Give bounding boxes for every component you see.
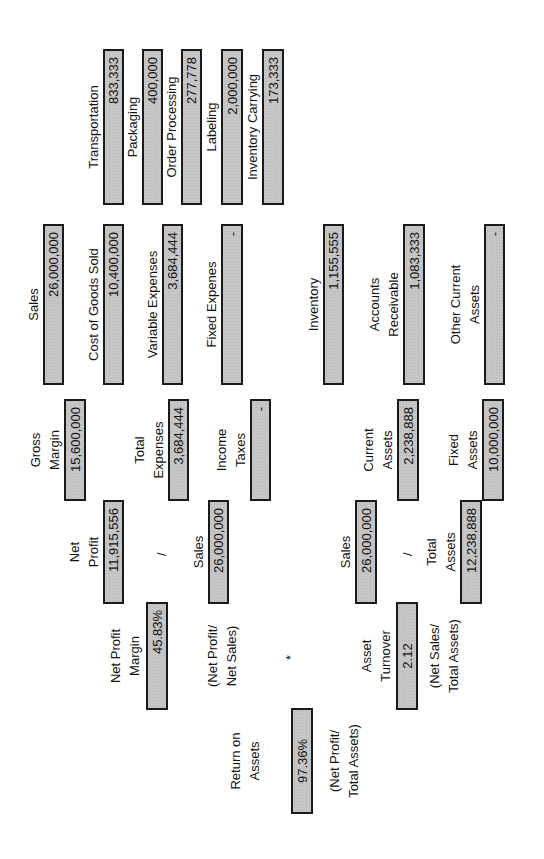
net-profit-margin-label: Net Profit Margin: [106, 602, 144, 710]
net-profit-label-line2: Profit: [84, 500, 103, 604]
total-assets-label: Total Assets: [422, 500, 460, 604]
sales-bottom-label: Sales: [336, 500, 355, 604]
asset-turnover-label-line2: Turnover: [376, 602, 395, 710]
multiply-operator: *: [283, 655, 298, 660]
net-profit-margin-box: 45.83%: [146, 602, 168, 710]
order-processing-label: Order Processing: [162, 49, 181, 205]
asset-turnover-formula: (Net Sales/ Total Assets): [425, 602, 463, 710]
return-on-assets-formula: (Net Profit/ Total Assets): [325, 708, 363, 814]
net-profit-margin-formula-line1: (Net Profit/: [203, 602, 222, 710]
current-assets-label-line2: Assets: [378, 399, 397, 501]
net-profit-margin-label-line1: Net Profit: [106, 602, 125, 710]
total-expenses-label-line2: Expenses: [149, 399, 168, 501]
total-assets-label-line2: Assets: [441, 500, 460, 604]
variable-expenses-box: 3,684,444: [162, 224, 183, 385]
return-on-assets-label: Return on Assets: [226, 708, 264, 814]
labeling-label: Labeling: [202, 49, 221, 205]
fixed-assets-label-line2: Assets: [463, 399, 482, 501]
fixed-expenses-label: Fixed Expenes: [202, 224, 221, 385]
current-assets-label: Current Assets: [359, 399, 397, 501]
other-current-assets-label-line1: Other Current: [446, 224, 465, 385]
sales-mid-label: Sales: [189, 500, 208, 604]
total-assets-label-line1: Total: [422, 500, 441, 604]
sales-top-label: Sales: [24, 224, 43, 385]
net-profit-margin-label-line2: Margin: [125, 602, 144, 710]
labeling-box: 2,000,000: [221, 49, 243, 205]
income-taxes-label: Income Taxes: [212, 399, 250, 501]
asset-turnover-formula-line1: (Net Sales/: [425, 602, 444, 710]
divide-operator-assets: /: [400, 552, 415, 556]
accounts-receivable-box: 1,083,333: [403, 224, 425, 385]
return-on-assets-formula-line1: (Net Profit/: [325, 708, 344, 814]
total-assets-box: 12,238,888: [460, 500, 482, 604]
return-on-assets-formula-line2: Total Assets): [344, 708, 363, 814]
fixed-assets-label: Fixed Assets: [444, 399, 482, 501]
asset-turnover-box: 2.12: [396, 602, 418, 710]
total-expenses-box: 3,684,444: [168, 399, 189, 501]
accounts-receivable-label: Accounts Receivable: [365, 224, 403, 385]
gross-margin-label: Gross Margin: [26, 399, 64, 501]
return-on-assets-label-line1: Return on: [226, 708, 245, 814]
sales-bottom-box: 26,000,000: [355, 500, 377, 604]
other-current-assets-box: -: [484, 224, 505, 385]
current-assets-box: 2,238,888: [397, 399, 419, 501]
packaging-box: 400,000: [142, 49, 163, 205]
sales-top-box: 26,000,000: [43, 224, 64, 385]
roa-diagram: Transportation 833,333 Packaging 400,000…: [0, 0, 544, 859]
income-taxes-label-line1: Income: [212, 399, 231, 501]
transportation-box: 833,333: [103, 49, 124, 205]
inventory-box: 1,155,555: [323, 224, 344, 385]
asset-turnover-label-line1: Asset: [357, 602, 376, 710]
order-processing-box: 277,778: [181, 49, 202, 205]
total-expenses-label: Total Expenses: [130, 399, 168, 501]
gross-margin-label-line2: Margin: [45, 399, 64, 501]
income-taxes-box: -: [250, 399, 271, 501]
variable-expenses-label: Variable Expenses: [143, 224, 162, 385]
gross-margin-label-line1: Gross: [26, 399, 45, 501]
inventory-carrying-label: Inventory Carrying: [243, 49, 262, 205]
inventory-label: Inventory: [304, 224, 323, 385]
cogs-box: 10,400,000: [103, 224, 124, 385]
asset-turnover-label: Asset Turnover: [357, 602, 395, 710]
income-taxes-label-line2: Taxes: [231, 399, 250, 501]
accounts-receivable-label-line2: Receivable: [384, 224, 403, 385]
other-current-assets-label-line2: Assets: [465, 224, 484, 385]
net-profit-box: 11,915,556: [103, 500, 124, 604]
fixed-expenses-box: -: [221, 224, 243, 385]
packaging-label: Packaging: [123, 49, 142, 205]
net-profit-label-line1: Net: [65, 500, 84, 604]
return-on-assets-box: 97.36%: [291, 708, 313, 814]
gross-margin-box: 15,600,000: [64, 399, 86, 501]
inventory-carrying-box: 173,333: [262, 49, 284, 205]
current-assets-label-line1: Current: [359, 399, 378, 501]
divide-operator-profit: /: [154, 552, 169, 556]
net-profit-margin-formula: (Net Profit/ Net Sales): [203, 602, 241, 710]
return-on-assets-label-line2: Assets: [245, 708, 264, 814]
asset-turnover-formula-line2: Total Assets): [444, 602, 463, 710]
net-profit-margin-formula-line2: Net Sales): [222, 602, 241, 710]
other-current-assets-label: Other Current Assets: [446, 224, 484, 385]
fixed-assets-label-line1: Fixed: [444, 399, 463, 501]
fixed-assets-box: 10,000,000: [482, 399, 504, 501]
accounts-receivable-label-line1: Accounts: [365, 224, 384, 385]
net-profit-label: Net Profit: [65, 500, 103, 604]
total-expenses-label-line1: Total: [130, 399, 149, 501]
sales-mid-box: 26,000,000: [208, 500, 229, 604]
cogs-label: Cost of Goods Sold: [84, 224, 103, 385]
transportation-label: Transportation: [84, 49, 103, 205]
